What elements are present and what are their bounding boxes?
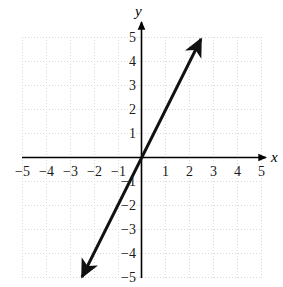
x-axis-label: x [271, 150, 278, 165]
coordinate-plane-figure: y x −5 −4 −3 −2 −1 1 2 3 4 5 5 4 3 2 1 −… [0, 0, 283, 287]
x-tick-label-4: 4 [228, 165, 247, 179]
y-tick-label-neg2: −2 [104, 199, 136, 213]
y-tick-label-3: 3 [106, 79, 136, 93]
y-tick-label-neg1: −1 [104, 175, 136, 189]
y-tick-label-1: 1 [106, 127, 136, 141]
plot-area [0, 0, 283, 287]
y-axis-label: y [135, 4, 142, 19]
y-tick-label-5: 5 [106, 31, 136, 45]
x-tick-label-3: 3 [204, 165, 223, 179]
x-tick-label-5: 5 [252, 165, 271, 179]
x-tick-label-2: 2 [180, 165, 199, 179]
y-tick-label-neg3: −3 [104, 223, 136, 237]
y-tick-label-neg4: −4 [104, 247, 136, 261]
y-tick-label-neg5: −5 [104, 271, 136, 285]
x-tick-label-1: 1 [156, 165, 175, 179]
y-tick-label-2: 2 [106, 103, 136, 117]
y-tick-label-4: 4 [106, 55, 136, 69]
